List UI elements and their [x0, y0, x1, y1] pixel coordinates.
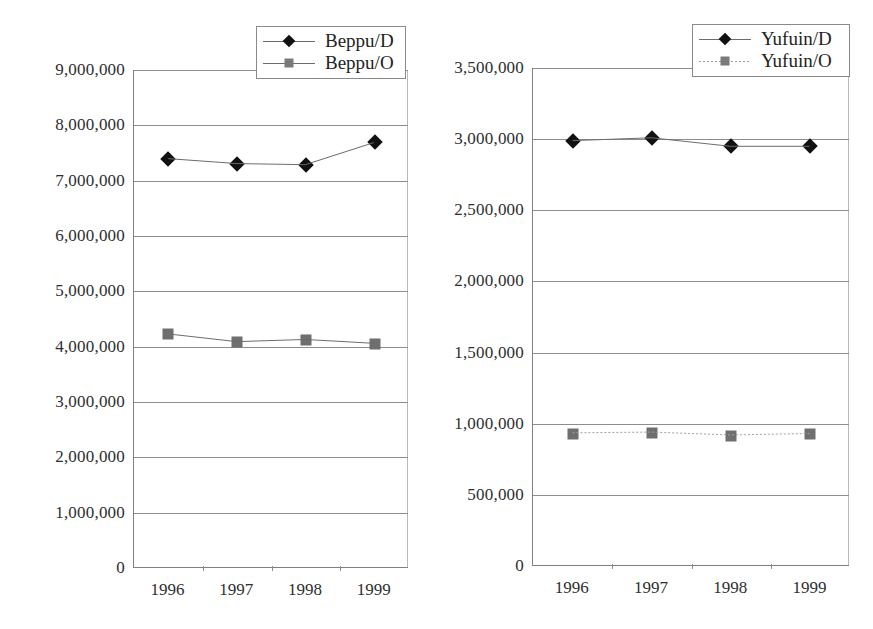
plot-right-border [407, 70, 408, 567]
legend-item-yufuin-d: Yufuin/D [699, 28, 841, 50]
y-axis-tick-label: 500,000 [467, 485, 524, 505]
plot-right-border [848, 68, 849, 565]
chart-panel-beppu: 01,000,0002,000,0003,000,0004,000,0005,0… [0, 0, 437, 629]
x-axis-tick-label: 1998 [713, 578, 747, 598]
chart-panel-yufuin: 0500,0001,000,0001,500,0002,000,0002,500… [437, 0, 873, 629]
x-axis-tick-label: 1999 [357, 580, 391, 600]
gridline [134, 291, 408, 292]
data-point-marker [163, 329, 174, 340]
series-line-beppu-o [168, 334, 374, 343]
data-point-marker [723, 138, 739, 154]
gridline [134, 347, 408, 348]
gridline [134, 125, 408, 126]
x-axis-tick-label: 1996 [150, 580, 184, 600]
x-axis-tick [692, 564, 693, 569]
legend-yufuin: Yufuin/D Yufuin/O [692, 24, 850, 77]
gridline [533, 495, 849, 496]
y-axis-tick-label: 8,000,000 [55, 115, 125, 135]
legend-item-beppu-o: Beppu/O [263, 52, 397, 74]
y-axis-tick-label: 0 [116, 558, 125, 578]
data-point-marker [300, 335, 311, 346]
data-point-marker [232, 337, 243, 348]
data-point-marker [644, 130, 660, 146]
plot-area-yufuin [532, 68, 849, 566]
data-point-marker [369, 338, 380, 349]
legend-swatch-diamond-icon [699, 32, 751, 46]
gridline [134, 513, 408, 514]
plot-area-beppu [133, 70, 408, 568]
data-point-marker [726, 430, 737, 441]
y-axis-tick-label: 4,000,000 [55, 337, 125, 357]
y-axis-tick-label: 0 [515, 556, 524, 576]
y-axis-tick-label: 5,000,000 [55, 281, 125, 301]
legend-label-beppu-d: Beppu/D [325, 30, 394, 52]
y-axis-tick-label: 1,000,000 [55, 503, 125, 523]
data-point-marker [367, 135, 383, 151]
gridline [533, 281, 849, 282]
x-axis-tick [612, 564, 613, 569]
series-line-beppu-d [168, 143, 374, 165]
legend-swatch-diamond-icon [263, 34, 315, 48]
legend-label-yufuin-o: Yufuin/O [761, 50, 832, 72]
x-axis-tick [203, 566, 204, 571]
x-axis-tick [272, 566, 273, 571]
data-point-marker [565, 133, 581, 149]
y-axis-tick-label: 3,500,000 [454, 58, 524, 78]
series-lines-yufuin [533, 68, 849, 565]
y-axis-tick-label: 2,000,000 [454, 271, 524, 291]
x-axis-tick [771, 564, 772, 569]
gridline [134, 236, 408, 237]
gridline [533, 353, 849, 354]
gridline [533, 424, 849, 425]
gridline [134, 457, 408, 458]
legend-item-yufuin-o: Yufuin/O [699, 50, 841, 72]
legend-label-yufuin-d: Yufuin/D [761, 28, 832, 50]
x-axis-tick-label: 1999 [792, 578, 826, 598]
gridline [134, 181, 408, 182]
x-axis-tick-label: 1996 [555, 578, 589, 598]
data-point-marker [567, 428, 578, 439]
y-axis-tick-label: 1,500,000 [454, 343, 524, 363]
data-point-marker [803, 138, 819, 154]
gridline [134, 402, 408, 403]
x-axis-tick-label: 1998 [288, 580, 322, 600]
y-axis-tick-label: 2,000,000 [55, 447, 125, 467]
legend-item-beppu-d: Beppu/D [263, 30, 397, 52]
data-point-marker [646, 427, 657, 438]
x-axis-tick-label: 1997 [219, 580, 253, 600]
y-axis-tick-label: 6,000,000 [55, 226, 125, 246]
data-point-marker [298, 157, 314, 173]
y-axis-tick-label: 3,000,000 [55, 392, 125, 412]
data-point-marker [805, 429, 816, 440]
series-lines-beppu [134, 70, 408, 567]
y-axis-tick-label: 3,000,000 [454, 129, 524, 149]
data-point-marker [161, 151, 177, 167]
x-axis-tick [340, 566, 341, 571]
legend-swatch-square-icon [263, 56, 315, 70]
gridline [533, 210, 849, 211]
series-line-yufuin-o [573, 432, 810, 435]
data-point-marker [229, 156, 245, 172]
y-axis-tick-label: 1,000,000 [454, 414, 524, 434]
y-axis-tick-label: 7,000,000 [55, 171, 125, 191]
x-axis-tick-label: 1997 [634, 578, 668, 598]
legend-swatch-square-icon [699, 54, 751, 68]
y-axis-tick-label: 2,500,000 [454, 200, 524, 220]
legend-label-beppu-o: Beppu/O [325, 52, 394, 74]
y-axis-tick-label: 9,000,000 [55, 60, 125, 80]
legend-beppu: Beppu/D Beppu/O [256, 26, 406, 79]
